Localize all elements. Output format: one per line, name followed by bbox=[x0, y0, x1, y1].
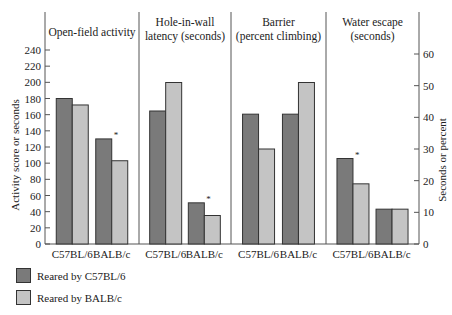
right-tick-label: 50 bbox=[423, 80, 435, 92]
left-tick-label: 80 bbox=[30, 173, 42, 185]
significance-asterisk: * bbox=[114, 130, 119, 140]
right-tick-label: 60 bbox=[423, 48, 435, 60]
bar bbox=[243, 114, 259, 244]
left-tick-label: 40 bbox=[30, 206, 42, 218]
category-label: C57BL/6 bbox=[145, 248, 186, 260]
bar bbox=[259, 149, 275, 244]
bar bbox=[392, 209, 408, 244]
legend-label-balb: Reared by BALB/c bbox=[37, 292, 122, 304]
left-tick-label: 100 bbox=[25, 157, 42, 169]
legend-item-c57: Reared by C57BL/6 bbox=[16, 268, 126, 283]
right-tick-label: 20 bbox=[423, 175, 435, 187]
significance-asterisk: * bbox=[206, 194, 211, 204]
category-label: BALB/c bbox=[186, 248, 223, 260]
panel-title: Hole-in-wall bbox=[156, 16, 215, 28]
left-tick-label: 20 bbox=[30, 222, 42, 234]
right-tick-label: 30 bbox=[423, 143, 435, 155]
bars bbox=[56, 83, 408, 245]
left-axis-label: Activity score or seconds bbox=[9, 99, 21, 211]
category-label: C57BL/6 bbox=[238, 248, 279, 260]
legend-swatch-c57 bbox=[16, 268, 31, 283]
right-tick-label: 10 bbox=[423, 206, 435, 218]
category-label: BALB/c bbox=[280, 248, 317, 260]
category-label: C57BL/6 bbox=[332, 248, 373, 260]
bar bbox=[337, 159, 353, 245]
right-tick-label: 0 bbox=[423, 238, 429, 250]
bar bbox=[96, 139, 112, 244]
left-tick-label: 220 bbox=[25, 60, 42, 72]
left-tick-label: 160 bbox=[25, 109, 42, 121]
panel-title: Barrier bbox=[262, 16, 295, 28]
panel-title: (percent climbing) bbox=[236, 30, 321, 43]
bar bbox=[188, 203, 204, 244]
panel-title: latency (seconds) bbox=[145, 30, 225, 43]
left-tick-label: 0 bbox=[36, 238, 42, 250]
category-label: BALB/c bbox=[373, 248, 410, 260]
panel-title: Open-field activity bbox=[48, 26, 135, 39]
left-tick-label: 180 bbox=[25, 93, 42, 105]
bar bbox=[72, 105, 88, 244]
bar bbox=[282, 114, 298, 244]
bar bbox=[112, 161, 128, 244]
bar bbox=[353, 184, 369, 244]
bar bbox=[376, 209, 392, 244]
panel-title: Water escape bbox=[342, 16, 403, 29]
significance-asterisk: * bbox=[355, 150, 360, 160]
category-label: C57BL/6 bbox=[52, 248, 93, 260]
left-tick-label: 200 bbox=[25, 76, 42, 88]
right-axis-label: Seconds or percent bbox=[436, 118, 448, 202]
left-tick-label: 120 bbox=[25, 141, 42, 153]
legend-label-c57: Reared by C57BL/6 bbox=[37, 270, 126, 282]
panel-title: (seconds) bbox=[350, 30, 394, 43]
bar bbox=[298, 83, 314, 245]
bar bbox=[204, 216, 220, 245]
left-tick-label: 240 bbox=[25, 44, 42, 56]
right-tick-label: 40 bbox=[423, 111, 435, 123]
bar bbox=[150, 111, 166, 244]
legend-swatch-balb bbox=[16, 290, 31, 305]
bar bbox=[166, 83, 182, 245]
category-label: BALB/c bbox=[93, 248, 130, 260]
legend-item-balb: Reared by BALB/c bbox=[16, 290, 122, 305]
bar bbox=[56, 99, 72, 245]
left-tick-label: 60 bbox=[30, 190, 42, 202]
left-tick-label: 140 bbox=[25, 125, 42, 137]
